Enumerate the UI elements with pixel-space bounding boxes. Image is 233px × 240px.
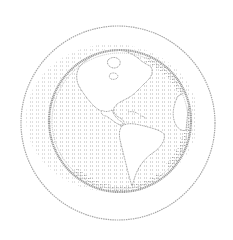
globe-illustration	[0, 0, 233, 240]
greenland	[107, 57, 120, 68]
globe-icon	[0, 0, 233, 240]
